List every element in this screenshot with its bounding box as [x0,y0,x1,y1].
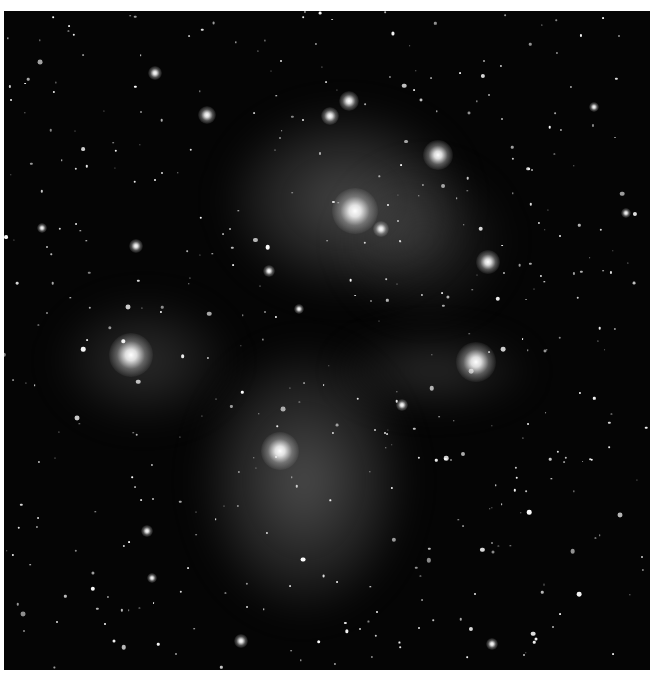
star [548,210,549,211]
star [523,654,525,656]
star [39,40,40,41]
star [578,224,580,226]
star [384,432,386,434]
star [336,581,338,583]
star [200,217,202,219]
star [365,103,367,105]
star [152,498,154,500]
star [134,486,136,488]
star [279,137,281,139]
star [495,297,499,301]
star [529,263,531,265]
bright-star [141,525,153,537]
star [472,289,474,291]
star [577,592,582,597]
star [498,545,499,546]
star [386,433,388,435]
star [290,650,292,652]
pleiades-photo [4,11,650,670]
star [24,112,25,113]
star [195,511,196,512]
star [415,567,417,569]
star [212,21,215,24]
star [6,550,7,551]
star [495,484,496,485]
star [302,16,304,18]
star [195,534,197,536]
star [232,264,234,266]
star [570,86,572,88]
star [516,477,519,480]
star [216,399,217,400]
bright-star [147,573,157,583]
star [528,423,530,425]
star [220,666,222,668]
star [504,14,506,16]
star [580,34,582,36]
star [554,153,555,154]
star [212,253,213,254]
star [79,423,80,424]
star [91,572,94,575]
star [476,101,477,102]
star [576,296,579,299]
star [371,655,373,657]
star [426,558,430,562]
star [257,50,258,51]
star [133,180,136,183]
star [441,292,443,294]
star [556,20,558,22]
star [399,646,401,648]
star [16,603,18,605]
star [137,280,139,282]
star [545,412,547,414]
star [420,576,421,577]
star [573,165,574,166]
star [595,538,596,539]
star [418,457,420,459]
star [413,89,415,91]
star [68,30,69,31]
star [53,16,55,18]
star [597,340,598,341]
star [503,272,505,274]
star [161,172,163,174]
star [201,28,204,31]
star [627,262,628,263]
star [546,349,547,350]
star [55,457,56,458]
star [289,585,291,587]
star [38,324,39,325]
star [104,111,105,112]
star [540,274,542,276]
star [50,129,53,132]
star [73,34,75,36]
star [199,90,200,91]
star [413,428,415,430]
star [280,60,282,62]
star [391,32,394,35]
bright-star [339,91,359,111]
star [404,140,408,144]
star [26,382,27,383]
star [477,275,478,276]
star [436,111,437,112]
star [514,489,516,491]
star [559,235,561,237]
star [428,548,430,550]
star [13,239,14,240]
star [131,476,133,478]
star [435,459,437,461]
star [529,43,532,46]
star [331,19,333,21]
star [187,567,189,569]
star [179,501,181,503]
star [430,77,432,79]
star [281,406,286,411]
star [112,142,114,144]
star [478,226,483,231]
star [336,424,339,427]
star [563,461,565,463]
star [510,545,511,546]
star [46,312,48,314]
